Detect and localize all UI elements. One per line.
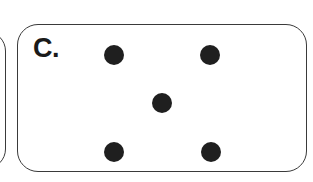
dot-field <box>18 25 306 171</box>
figure-canvas: C. <box>0 0 313 182</box>
dot-center <box>152 93 172 113</box>
dot-bottom-right <box>201 142 221 162</box>
panel-c: C. <box>17 24 307 172</box>
clipped-neighbor-panel <box>0 31 6 169</box>
dot-top-left <box>104 45 124 65</box>
dot-bottom-left <box>104 142 124 162</box>
dot-top-right <box>200 45 220 65</box>
